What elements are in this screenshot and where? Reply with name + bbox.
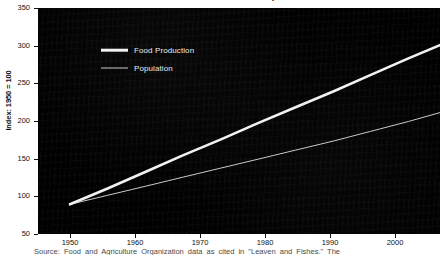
legend-label: Food Production	[134, 46, 194, 55]
y-tick-label: 150	[0, 155, 30, 163]
source-caption: Source: Food and Agriculture Organizatio…	[34, 247, 426, 255]
y-tick-label: 300	[0, 42, 30, 50]
y-tick-label: 100	[0, 192, 30, 200]
y-tick-label: 250	[0, 79, 30, 87]
y-tick-label: 200	[0, 117, 30, 125]
x-tick-label: 1970	[180, 239, 220, 247]
x-tick-label: 1950	[50, 239, 90, 247]
chart-legend: Food Production Population	[101, 41, 194, 77]
x-tick-label: 1980	[245, 239, 285, 247]
y-tick-label: 350	[0, 4, 30, 12]
legend-swatch-population-icon	[101, 63, 128, 73]
x-tick-label: 1960	[115, 239, 155, 247]
legend-item-population: Population	[101, 59, 194, 77]
chart-figure: World Food Production and Population Ind…	[0, 0, 446, 255]
legend-item-food-production: Food Production	[101, 41, 194, 59]
y-tick-label: 50	[0, 230, 30, 238]
y-tick-mark	[34, 234, 38, 235]
legend-swatch-food-production-icon	[101, 45, 128, 55]
x-tick-label: 2000	[375, 239, 415, 247]
plot-area: Food Production Population	[38, 8, 440, 234]
y-axis-title: Index: 1950 = 100	[4, 49, 13, 153]
series-lines	[38, 8, 440, 234]
chart-title: World Food Production and Population	[0, 0, 446, 2]
x-tick-label: 1990	[310, 239, 350, 247]
legend-label: Population	[134, 64, 173, 73]
